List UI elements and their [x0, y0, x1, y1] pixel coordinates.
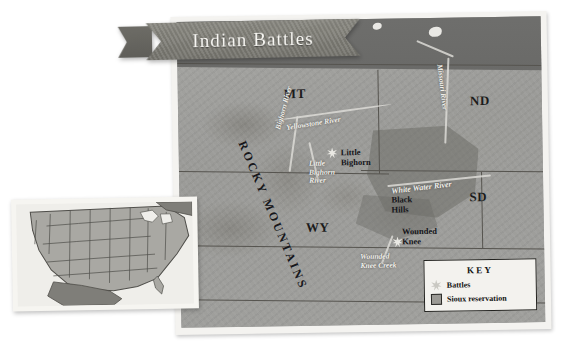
map-key-legend: KEY Battles Sioux reservation [423, 258, 537, 312]
square-swatch-icon [431, 294, 442, 305]
state-label-sd: SD [469, 189, 487, 205]
main-map-plate: MT ND SD WY Yellowstone River Bighorn Ri… [171, 11, 552, 335]
key-entry-sioux-reservation: Sioux reservation [431, 292, 530, 305]
place-label-little-bighorn: Little Bighorn [341, 147, 371, 167]
key-entry-battles: Battles [431, 278, 530, 291]
river-label-little-bighorn: Little Bighorn River [309, 159, 335, 185]
title-ribbon: Indian Battles [146, 19, 361, 60]
place-label-black-hills: Black Hills [391, 194, 412, 214]
key-entry-label: Sioux reservation [447, 294, 507, 304]
key-entry-label: Battles [447, 280, 471, 289]
inset-map-plate [11, 196, 199, 311]
inset-map-canvas [16, 201, 194, 306]
key-title: KEY [430, 264, 529, 276]
state-label-nd: ND [470, 93, 490, 109]
state-label-wy: WY [306, 220, 330, 236]
river-label-wounded-knee-creek: Wounded Knee Creek [360, 252, 396, 270]
map-page: MT ND SD WY Yellowstone River Bighorn Ri… [0, 0, 563, 345]
main-map-canvas: MT ND SD WY Yellowstone River Bighorn Ri… [177, 16, 546, 328]
starburst-icon [431, 280, 442, 291]
page-title: Indian Battles [146, 19, 361, 60]
place-label-wounded-knee: Wounded Knee [402, 226, 437, 247]
united-states-locator-map [16, 201, 194, 306]
